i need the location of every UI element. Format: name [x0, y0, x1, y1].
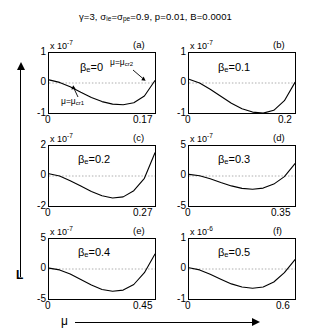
title-eq1: =σ [111, 11, 123, 22]
panel-c-label: (c) [133, 132, 144, 143]
panel-b-xtick-right: 0.2 [278, 114, 292, 125]
panel-d-xtick-right: 0.35 [271, 207, 290, 218]
panel-e-ytick-top: 5 [36, 232, 46, 243]
panel-a-arrow-cr2-head-icon [141, 76, 145, 80]
title-rest: =0.9, p=0.01, B=0.0001 [130, 11, 232, 22]
panel-b-beta-value: =0.1 [229, 61, 251, 73]
panel-e-exp-mantissa: x 10 [50, 227, 67, 237]
panel-d-exponent: x 10-7 [190, 132, 213, 144]
panel-f-exponent: x 10-6 [190, 225, 213, 237]
panel-a-cr1-sub: cr1 [76, 100, 84, 106]
panel-f-curve [189, 260, 295, 289]
panel-b-xtick-left: 0 [185, 114, 191, 125]
panel-f-exp-power: -6 [207, 225, 213, 232]
panel-d-curve [189, 164, 295, 190]
panel-c-beta-annotation: βe=0.2 [78, 153, 110, 166]
panel-c-ytick-mid: 0 [36, 169, 46, 180]
y-arrow-shaft [20, 68, 21, 277]
panel-a-exp-mantissa: x 10 [50, 41, 67, 51]
panel-b-beta-annotation: βe=0.1 [218, 61, 250, 74]
figure-title: γ=3, σie=σpe=0.9, p=0.01, B=0.0001 [0, 11, 311, 22]
y-axis-label: L [16, 268, 23, 282]
panel-e-xtick-left: 0 [45, 300, 51, 311]
panel-a-annotation-cr2: μ=μcr2 [110, 57, 133, 67]
panel-d-exp-mantissa: x 10 [190, 134, 207, 144]
panel-b-curve [189, 79, 295, 113]
panel-d-label: (d) [273, 132, 285, 143]
figure-canvas: γ=3, σie=σpe=0.9, p=0.01, B=0.0001 L μ x… [0, 0, 311, 335]
panel-d-ytick-mid: 0 [176, 169, 186, 180]
panel-e-exp-power: -7 [67, 225, 73, 232]
panel-c-ytick-top: 2 [36, 139, 46, 150]
global-y-axis-arrow [15, 62, 27, 277]
panel-b-exp-mantissa: x 10 [190, 41, 207, 51]
panel-b-ytick-top: 1 [176, 46, 186, 57]
panel-a-xtick-left: 0 [45, 114, 51, 125]
panel-f-ytick-top: 1 [176, 232, 186, 243]
panel-d-ytick-top: 5 [176, 139, 186, 150]
title-gamma: γ=3, [79, 11, 100, 22]
panel-a-xtick-right: 0.17 [133, 114, 152, 125]
panel-e-exponent: x 10-7 [50, 225, 73, 237]
panel-a-annotation-cr1: μ=μcr1 [61, 96, 84, 106]
panel-c-exponent: x 10-7 [50, 132, 73, 144]
panel-a-cr2-sub: cr2 [125, 61, 133, 67]
x-arrow-shaft [75, 322, 252, 323]
panel-b-exponent: x 10-7 [190, 39, 213, 51]
panel-b-ytick-mid: 0 [176, 76, 186, 87]
panel-c-xtick-right: 0.27 [133, 207, 152, 218]
panel-f-ytick-mid: 0 [176, 262, 186, 273]
panel-a-ytick-mid: 0 [36, 76, 46, 87]
panel-f-xtick-right: 0.6 [276, 300, 290, 311]
panel-e-xtick-right: 0.45 [133, 300, 152, 311]
panel-d-xtick-left: 0 [185, 207, 191, 218]
panel-e-label: (e) [133, 225, 145, 236]
panel-e-beta-value: =0.4 [89, 246, 111, 258]
panel-f-label: (f) [273, 225, 282, 236]
panel-a-cr1-text: μ=μ [61, 96, 76, 106]
panel-c-xtick-left: 0 [45, 207, 51, 218]
panel-c-exp-mantissa: x 10 [50, 134, 67, 144]
panel-b-label: (b) [273, 39, 285, 50]
panel-f-beta-annotation: βe=0.5 [218, 246, 250, 259]
panel-a-arrow-cr2-shaft [133, 70, 144, 79]
panel-a-exponent: x 10-7 [50, 39, 73, 51]
panel-d-exp-power: -7 [207, 132, 213, 139]
panel-a-exp-power: -7 [67, 39, 73, 46]
panel-a-cr2-text: μ=μ [110, 57, 125, 67]
panel-e-curve [49, 254, 155, 291]
panel-f-exp-mantissa: x 10 [190, 227, 207, 237]
panel-a-beta-value: =0 [91, 61, 104, 73]
panel-c-beta-value: =0.2 [89, 153, 111, 165]
panel-d-beta-annotation: βe=0.3 [218, 153, 250, 166]
panel-a-ytick-top: 1 [36, 46, 46, 57]
panel-e-ytick-mid: 0 [36, 262, 46, 273]
panel-c-exp-power: -7 [67, 132, 73, 139]
panel-e-beta-annotation: βe=0.4 [78, 246, 110, 259]
panel-b-exp-power: -7 [207, 39, 213, 46]
x-axis-label: μ [61, 314, 68, 328]
panel-f-beta-value: =0.5 [229, 246, 251, 258]
panel-a-label: (a) [133, 39, 145, 50]
x-arrow-head-icon [252, 318, 260, 326]
panel-d-beta-value: =0.3 [229, 153, 251, 165]
panel-a-beta-annotation: βe=0 [80, 61, 103, 74]
panel-f-xtick-left: 0 [185, 300, 191, 311]
global-x-axis-arrow [75, 317, 260, 327]
